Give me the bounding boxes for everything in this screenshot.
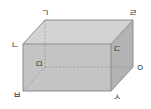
- cuboid-diagram: ㄱ ㄹ ㄴ ㄷ ㅁ ㅇ ㅂ ㅅ: [0, 0, 151, 109]
- vertex-label-back-bottom-left: ㅁ: [35, 59, 43, 69]
- vertex-label-back-top-right: ㄹ: [129, 8, 137, 18]
- vertex-label-front-top-left: ㄴ: [11, 40, 19, 50]
- vertex-label-front-top-right: ㄷ: [113, 44, 121, 54]
- vertex-label-front-bottom-right: ㅅ: [113, 92, 121, 102]
- vertex-label-back-bottom-right: ㅇ: [136, 63, 144, 73]
- vertex-label-front-bottom-left: ㅂ: [13, 90, 21, 100]
- vertex-label-back-top-left: ㄱ: [41, 8, 49, 18]
